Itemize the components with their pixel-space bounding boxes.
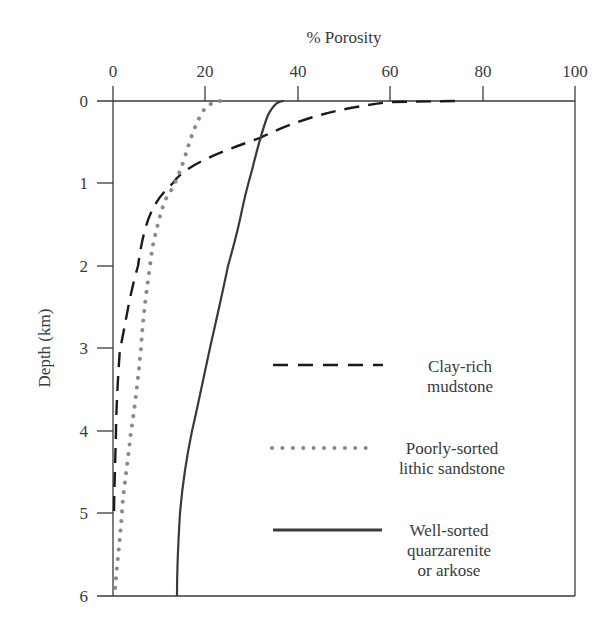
legend-label-line2: lithic sandstone: [399, 459, 505, 478]
legend-label-line2: quarzarenite: [407, 541, 491, 560]
legend-item-well-sorted-quarzarenite: Well-sorted quarzarenite or arkose: [273, 521, 491, 580]
series-clay-rich-mudstone: [114, 101, 455, 513]
legend-label-line3: or arkose: [418, 561, 481, 580]
series-poorly-sorted-lithic-sandstone: [115, 101, 220, 590]
y-tick-label: 6: [80, 587, 89, 606]
x-tick-label: 0: [109, 62, 118, 81]
legend-label-line1: Poorly-sorted: [406, 439, 499, 458]
y-tick-label: 4: [80, 422, 89, 441]
legend-label-line1: Well-sorted: [410, 521, 489, 540]
y-tick-label: 1: [80, 174, 89, 193]
x-tick-label: 60: [382, 62, 399, 81]
x-tick-labels: 0 20 40 60 80 100: [109, 62, 588, 81]
legend-label-line1: Clay-rich: [428, 357, 493, 376]
y-tick-label: 3: [80, 339, 89, 358]
y-tick-label: 5: [80, 504, 89, 523]
porosity-depth-chart: % Porosity Depth (km) 0 20 40 60 80 100 …: [0, 0, 615, 625]
legend-item-clay-rich-mudstone: Clay-rich mudstone: [273, 357, 493, 396]
x-tick-label: 40: [290, 62, 307, 81]
legend-item-poorly-sorted-lithic-sandstone: Poorly-sorted lithic sandstone: [272, 439, 505, 478]
y-tick-labels: 0 1 2 3 4 5 6: [80, 92, 89, 606]
x-tick-label: 100: [562, 62, 588, 81]
series-well-sorted-quarzarenite: [177, 101, 284, 596]
legend-label-line2: mudstone: [427, 377, 493, 396]
y-axis-title: Depth (km): [35, 309, 54, 388]
x-tick-label: 20: [197, 62, 214, 81]
x-tick-label: 80: [475, 62, 492, 81]
legend: Clay-rich mudstone Poorly-sorted lithic …: [272, 357, 505, 580]
plot-frame: [97, 86, 575, 596]
x-axis-title: % Porosity: [306, 28, 382, 47]
y-tick-label: 0: [80, 92, 89, 111]
y-tick-label: 2: [80, 257, 89, 276]
